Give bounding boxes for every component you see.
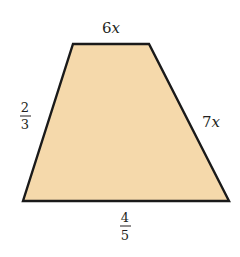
bottom-side-denominator: 5 xyxy=(121,228,129,243)
right-side-label: 7x xyxy=(202,113,221,131)
left-side-denominator: 3 xyxy=(21,117,29,132)
top-side-coefficient: 6 xyxy=(102,19,112,37)
bottom-side-label: 4 5 xyxy=(120,210,131,243)
left-side-numerator: 2 xyxy=(21,100,29,115)
top-side-label: 6x xyxy=(102,19,121,37)
right-side-coefficient: 7 xyxy=(202,113,212,131)
trapezoid-diagram: 6x 7x 2 3 4 5 xyxy=(0,0,240,257)
left-side-label: 2 3 xyxy=(20,100,31,132)
right-side-variable: x xyxy=(212,113,221,131)
trapezoid-shape xyxy=(23,44,229,201)
top-side-variable: x xyxy=(112,19,121,37)
bottom-side-numerator: 4 xyxy=(121,210,129,225)
